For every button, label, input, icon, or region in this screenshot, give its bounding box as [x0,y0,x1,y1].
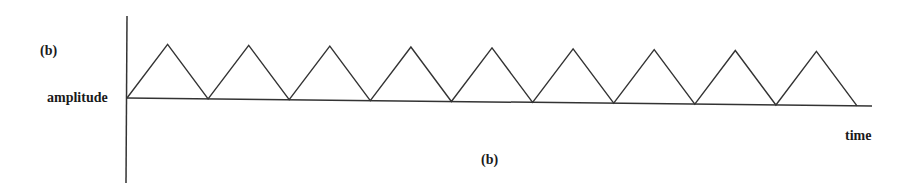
y-axis [126,16,127,183]
triangle-wave-plot [0,0,923,191]
triangle-wave [127,44,857,105]
x-axis [127,98,872,106]
x-axis-label: time [845,128,871,144]
y-axis-label: amplitude [47,90,108,106]
panel-label-top: (b) [40,43,57,59]
figure-caption: (b) [481,152,498,168]
